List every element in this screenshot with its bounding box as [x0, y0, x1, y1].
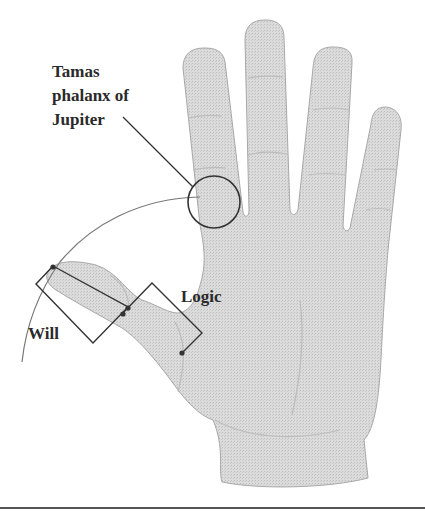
tamas-label-line-3: Jupiter — [52, 108, 129, 132]
tamas-leader-line — [123, 117, 193, 187]
hand-diagram: Tamas phalanx of Jupiter Logic Will — [0, 0, 425, 519]
will-label: Will — [28, 322, 59, 346]
logic-label: Logic — [181, 285, 222, 309]
horizontal-rule — [0, 507, 425, 509]
tamas-label-line-2: phalanx of — [52, 84, 129, 108]
will-dot-top — [50, 264, 55, 269]
logic-dot-bottom — [179, 350, 184, 355]
joint-dot-2 — [120, 311, 125, 316]
tamas-label-line-1: Tamas — [52, 60, 129, 84]
tamas-phalanx-label: Tamas phalanx of Jupiter — [52, 60, 129, 132]
joint-dot-1 — [125, 305, 130, 310]
